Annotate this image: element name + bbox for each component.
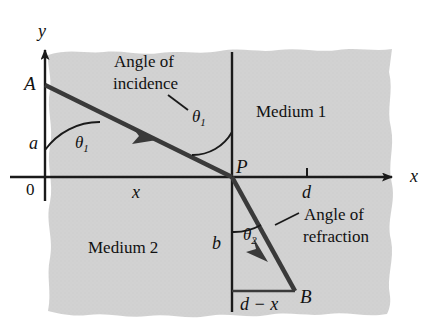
callout-incidence-line1: Angle of	[114, 53, 174, 70]
angle-label-theta1-normal: θ1	[192, 108, 206, 128]
segment-label-b: b	[212, 234, 221, 252]
callout-incidence-line2: incidence	[113, 75, 178, 92]
segment-label-d-minus-x: d − x	[240, 295, 278, 313]
shaded-background-region	[48, 49, 393, 317]
axis-label-y: y	[38, 22, 46, 40]
point-label-a: A	[24, 74, 36, 93]
diagram-canvas	[0, 0, 439, 333]
angle-label-theta2: θ2	[243, 226, 257, 246]
point-label-p: P	[236, 157, 248, 176]
axis-label-x: x	[410, 167, 418, 185]
callout-refraction-line1: Angle of	[304, 206, 364, 223]
callout-refraction-line2: refraction	[303, 228, 369, 245]
medium-label-lower: Medium 2	[88, 239, 158, 256]
theta2-subscript: 2	[251, 234, 257, 246]
segment-label-x: x	[132, 183, 140, 201]
medium-label-upper: Medium 1	[256, 103, 326, 120]
angle-label-theta1-surface: θ1	[75, 134, 89, 154]
point-label-b: B	[300, 287, 312, 306]
refraction-diagram: y x 0 A P B a b x d d − x θ1 θ1 θ2 Mediu…	[0, 0, 439, 333]
theta1-surface-subscript: 1	[83, 142, 89, 154]
segment-label-a: a	[29, 134, 38, 152]
theta1-normal-subscript: 1	[200, 116, 206, 128]
axis-label-origin: 0	[26, 181, 35, 198]
segment-label-d: d	[302, 183, 311, 201]
